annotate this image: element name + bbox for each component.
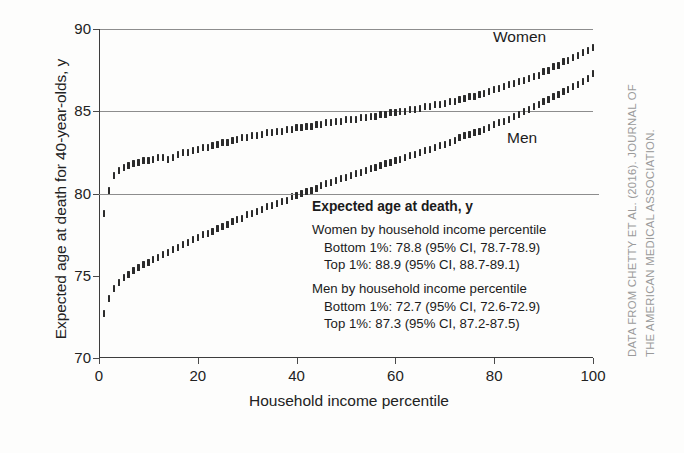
data-point — [271, 129, 273, 136]
credit-line-2: THE AMERICAN MEDICAL ASSOCIATION. — [644, 129, 656, 357]
data-point — [493, 86, 495, 93]
data-point — [325, 119, 327, 126]
data-point — [123, 274, 125, 281]
data-point — [577, 52, 579, 59]
data-point — [419, 105, 421, 112]
data-point — [562, 88, 564, 95]
data-point — [384, 160, 386, 167]
data-point — [370, 165, 372, 172]
data-point — [454, 137, 456, 144]
x-tick-label-80: 80 — [469, 368, 519, 383]
data-point — [582, 49, 584, 56]
annotation-connector-2 — [585, 194, 599, 195]
data-point — [547, 67, 549, 74]
data-point — [147, 157, 149, 164]
data-point — [305, 123, 307, 130]
data-point — [335, 177, 337, 184]
data-point — [483, 90, 485, 97]
data-point — [147, 259, 149, 266]
data-point — [374, 113, 376, 120]
data-point — [360, 169, 362, 176]
data-point — [538, 101, 540, 108]
data-point — [182, 149, 184, 156]
data-point — [152, 156, 154, 163]
data-point — [221, 223, 223, 230]
data-point — [478, 91, 480, 98]
data-point — [473, 93, 475, 100]
data-point — [132, 267, 134, 274]
data-point — [207, 230, 209, 237]
data-point — [394, 109, 396, 116]
data-point — [444, 141, 446, 148]
data-point — [261, 206, 263, 213]
data-point — [310, 123, 312, 130]
data-point — [113, 285, 115, 292]
data-point — [370, 113, 372, 120]
annotation-men-top: Top 1%: 87.3 (95% CI, 87.2-87.5) — [312, 315, 612, 333]
data-point — [340, 118, 342, 125]
data-point — [567, 57, 569, 64]
data-point — [276, 200, 278, 207]
data-point — [424, 103, 426, 110]
annotation-men-bottom: Bottom 1%: 72.7 (95% CI, 72.6-72.9) — [312, 298, 612, 316]
data-point — [463, 95, 465, 102]
x-tick-label-20: 20 — [173, 368, 223, 383]
data-point — [350, 172, 352, 179]
data-point — [251, 210, 253, 217]
data-point — [132, 160, 134, 167]
data-point — [325, 180, 327, 187]
data-point — [577, 81, 579, 88]
data-point — [345, 116, 347, 123]
data-point — [528, 75, 530, 82]
data-point — [172, 154, 174, 161]
data-point — [246, 134, 248, 141]
data-point — [374, 164, 376, 171]
data-point — [236, 216, 238, 223]
data-point — [503, 118, 505, 125]
data-point — [118, 279, 120, 286]
data-point — [271, 202, 273, 209]
data-point — [192, 236, 194, 243]
data-point — [439, 101, 441, 108]
data-point — [592, 44, 594, 51]
data-point — [439, 142, 441, 149]
data-point — [523, 77, 525, 84]
data-point — [513, 80, 515, 87]
data-point — [305, 188, 307, 195]
data-point — [221, 139, 223, 146]
x-tick-mark-80 — [494, 358, 495, 364]
data-point — [454, 98, 456, 105]
data-point — [389, 159, 391, 166]
data-point — [458, 96, 460, 103]
data-point — [365, 167, 367, 174]
data-point — [379, 162, 381, 169]
data-point — [582, 78, 584, 85]
data-point — [572, 83, 574, 90]
data-point — [127, 271, 129, 278]
data-point — [473, 129, 475, 136]
x-tick-label-40: 40 — [272, 368, 322, 383]
data-point — [207, 144, 209, 151]
data-point — [557, 91, 559, 98]
data-point — [177, 151, 179, 158]
data-point — [103, 210, 105, 217]
data-point — [518, 111, 520, 118]
data-point — [231, 137, 233, 144]
data-point — [182, 241, 184, 248]
data-point — [587, 75, 589, 82]
data-point — [533, 73, 535, 80]
data-point — [310, 187, 312, 194]
data-point — [483, 126, 485, 133]
data-point — [123, 164, 125, 171]
data-point — [266, 129, 268, 136]
x-tick-mark-100 — [593, 358, 594, 364]
annotation-women-top: Top 1%: 88.9 (95% CI, 88.7-89.1) — [312, 256, 612, 274]
data-point — [360, 114, 362, 121]
data-point — [202, 231, 204, 238]
data-point — [340, 175, 342, 182]
annotation-men-header: Men by household income percentile — [312, 280, 612, 298]
credit-line-1: DATA FROM CHETTY ET AL. (2016). JOURNAL … — [626, 84, 638, 357]
annotation-title: Expected age at death, y — [312, 198, 612, 216]
x-tick-mark-40 — [297, 358, 298, 364]
data-point — [463, 132, 465, 139]
